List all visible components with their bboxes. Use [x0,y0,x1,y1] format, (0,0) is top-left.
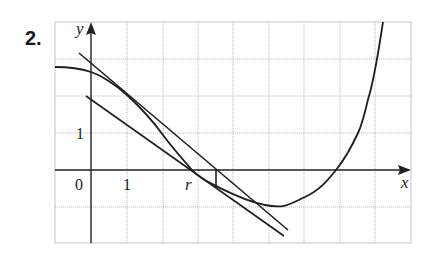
newton-method-diagram: y x 0 1 1 r [0,0,425,253]
x-tick-label-1: 1 [123,176,131,193]
origin-label: 0 [75,176,83,193]
x-axis-label: x [400,173,409,192]
tangent-line [79,53,288,230]
function-curve [55,22,383,206]
y-axis-label: y [74,19,84,38]
y-tick-label-1: 1 [76,125,84,142]
secant-line [86,96,284,236]
root-label: r [185,175,192,194]
